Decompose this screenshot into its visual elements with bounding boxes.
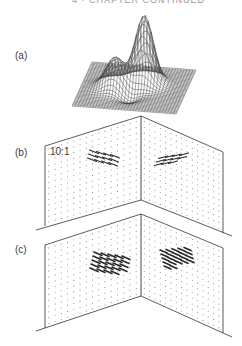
- panel-c-corner: [36, 214, 232, 337]
- scale-label: 10:1: [50, 146, 69, 157]
- panel-label-b: (b): [15, 147, 27, 158]
- surface-plot: [72, 16, 196, 114]
- panel-label-c: (c): [15, 244, 27, 255]
- panel-b-corner: [36, 116, 232, 236]
- panel-label-a: (a): [15, 50, 27, 61]
- figure-graphics: [0, 0, 242, 346]
- figure: 4 · CHAPTER CONTINUED (a) (b) 10:1 (c): [0, 0, 242, 346]
